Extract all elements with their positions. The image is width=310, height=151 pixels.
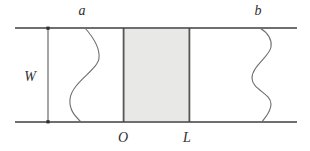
shaded-region xyxy=(123,29,190,121)
label-width-w: W xyxy=(24,70,36,84)
label-wire-a: a xyxy=(79,4,86,18)
width-dimension-top-dot xyxy=(46,27,49,30)
label-length-l: L xyxy=(183,131,191,145)
wire-a-curve xyxy=(70,28,99,122)
diagram-drawing xyxy=(0,0,310,151)
width-dimension-bottom-dot xyxy=(46,120,49,123)
label-wire-b: b xyxy=(255,4,262,18)
physics-rail-diagram: a b W O L xyxy=(0,0,310,151)
wire-b-curve xyxy=(252,28,271,122)
label-origin-o: O xyxy=(118,131,128,145)
